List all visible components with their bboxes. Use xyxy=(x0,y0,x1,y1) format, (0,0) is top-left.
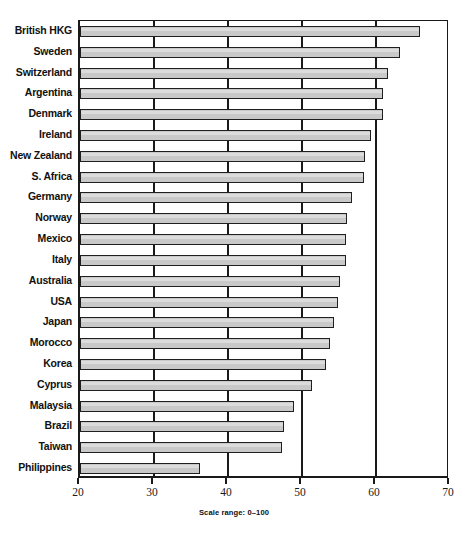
x-tick-label-70: 70 xyxy=(428,486,468,498)
bar-switzerland xyxy=(80,68,388,79)
category-label-korea: Korea xyxy=(0,358,72,369)
category-label-mexico: Mexico xyxy=(0,233,72,244)
x-tick-label-20: 20 xyxy=(58,486,98,498)
bar-row xyxy=(80,250,346,271)
bar-row xyxy=(80,63,388,84)
bar-sweden xyxy=(80,47,400,58)
bar-row xyxy=(80,437,282,458)
category-label-new-zealand: New Zealand xyxy=(0,150,72,161)
x-tick-mark-20 xyxy=(77,478,78,484)
bar-british-hkg xyxy=(80,26,420,37)
category-label-s-africa: S. Africa xyxy=(0,171,72,182)
bar-row xyxy=(80,188,352,209)
category-label-taiwan: Taiwan xyxy=(0,441,72,452)
bar-row xyxy=(80,271,340,292)
bar-taiwan xyxy=(80,442,282,453)
category-label-cyprus: Cyprus xyxy=(0,379,72,390)
bar-row xyxy=(80,375,312,396)
category-label-british-hkg: British HKG xyxy=(0,25,72,36)
bar-malaysia xyxy=(80,401,294,412)
bar-row xyxy=(80,417,284,438)
bar-philippines xyxy=(80,463,200,474)
bar-s-africa xyxy=(80,172,364,183)
category-label-argentina: Argentina xyxy=(0,87,72,98)
x-tick-mark-60 xyxy=(373,478,374,484)
bars-group xyxy=(80,21,447,476)
bar-row xyxy=(80,458,200,479)
category-label-norway: Norway xyxy=(0,212,72,223)
category-label-philippines: Philippines xyxy=(0,462,72,473)
bar-row xyxy=(80,312,334,333)
bar-brazil xyxy=(80,421,284,432)
category-label-morocco: Morocco xyxy=(0,337,72,348)
x-tick-mark-30 xyxy=(151,478,152,484)
bar-italy xyxy=(80,255,346,266)
bar-row xyxy=(80,83,383,104)
bar-new-zealand xyxy=(80,151,365,162)
bar-row xyxy=(80,21,420,42)
bar-row xyxy=(80,167,364,188)
category-label-italy: Italy xyxy=(0,254,72,265)
category-label-sweden: Sweden xyxy=(0,46,72,57)
category-label-denmark: Denmark xyxy=(0,108,72,119)
bar-japan xyxy=(80,317,334,328)
bar-norway xyxy=(80,213,347,224)
bar-usa xyxy=(80,297,338,308)
bar-row xyxy=(80,292,338,313)
bar-germany xyxy=(80,192,352,203)
bar-row xyxy=(80,396,294,417)
bar-ireland xyxy=(80,130,371,141)
x-tick-label-60: 60 xyxy=(354,486,394,498)
horizontal-bar-chart: British HKGSwedenSwitzerlandArgentinaDen… xyxy=(0,0,468,538)
bar-australia xyxy=(80,276,340,287)
x-tick-mark-70 xyxy=(447,478,448,484)
bar-row xyxy=(80,229,346,250)
bar-mexico xyxy=(80,234,346,245)
x-tick-label-50: 50 xyxy=(280,486,320,498)
bar-denmark xyxy=(80,109,383,120)
category-label-japan: Japan xyxy=(0,316,72,327)
bar-row xyxy=(80,125,371,146)
bar-row xyxy=(80,333,330,354)
x-tick-label-40: 40 xyxy=(206,486,246,498)
category-label-germany: Germany xyxy=(0,191,72,202)
category-label-australia: Australia xyxy=(0,275,72,286)
category-label-usa: USA xyxy=(0,296,72,307)
bar-argentina xyxy=(80,88,383,99)
scale-range-note: Scale range: 0–100 xyxy=(0,508,468,517)
bar-cyprus xyxy=(80,380,312,391)
bar-row xyxy=(80,104,383,125)
x-tick-label-30: 30 xyxy=(132,486,172,498)
bar-row xyxy=(80,146,365,167)
bar-row xyxy=(80,42,400,63)
bar-korea xyxy=(80,359,326,370)
x-tick-mark-40 xyxy=(225,478,226,484)
x-tick-mark-50 xyxy=(299,478,300,484)
plot-area xyxy=(78,20,448,478)
category-label-brazil: Brazil xyxy=(0,420,72,431)
bar-morocco xyxy=(80,338,330,349)
category-label-malaysia: Malaysia xyxy=(0,400,72,411)
category-label-ireland: Ireland xyxy=(0,129,72,140)
category-label-switzerland: Switzerland xyxy=(0,67,72,78)
bar-row xyxy=(80,208,347,229)
bar-row xyxy=(80,354,326,375)
